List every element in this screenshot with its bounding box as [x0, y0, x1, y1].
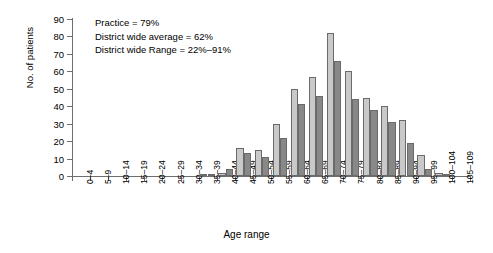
chart-figure: No. of patients 0102030405060708090 0–45…	[0, 0, 493, 253]
bar	[291, 89, 298, 176]
bar	[370, 110, 377, 176]
bar	[200, 174, 207, 176]
bar	[244, 153, 251, 176]
bar	[334, 61, 341, 176]
x-axis-title: Age range	[0, 229, 493, 240]
bar	[298, 104, 305, 176]
y-tick-label: 70	[40, 49, 64, 60]
y-tick-label: 20	[40, 136, 64, 147]
y-tick-label: 50	[40, 84, 64, 95]
bar	[417, 155, 424, 176]
y-tick-label: 0	[40, 171, 64, 182]
annotation-block: Practice = 79% District wide average = 6…	[95, 16, 231, 57]
y-axis-title: No. of patients	[24, 0, 35, 123]
bar	[316, 96, 323, 176]
bar	[208, 174, 215, 176]
bar	[352, 99, 359, 176]
bar	[327, 33, 334, 176]
bar	[399, 120, 406, 176]
bar	[226, 169, 233, 176]
bar	[388, 122, 395, 176]
annotation-line-district-range: District wide Range = 22%–91%	[95, 43, 231, 57]
bar	[280, 138, 287, 176]
bar	[262, 157, 269, 176]
y-tick-label: 80	[40, 31, 64, 42]
bar	[218, 173, 225, 176]
bar	[435, 173, 442, 176]
annotation-line-district-average: District wide average = 62%	[95, 30, 231, 44]
bar	[236, 148, 243, 176]
bar	[381, 106, 388, 176]
y-tick-label: 40	[40, 101, 64, 112]
x-tick	[72, 177, 73, 181]
bar	[309, 77, 316, 176]
bar	[363, 98, 370, 177]
bar	[407, 143, 414, 176]
annotation-line-practice: Practice = 79%	[95, 16, 231, 30]
bar	[273, 124, 280, 176]
y-tick-label: 30	[40, 119, 64, 130]
bar	[425, 169, 432, 176]
bar	[255, 150, 262, 176]
bar	[345, 71, 352, 176]
bar	[443, 174, 450, 176]
y-tick-label: 10	[40, 154, 64, 165]
y-tick-label: 90	[40, 14, 64, 25]
y-tick-label: 60	[40, 66, 64, 77]
